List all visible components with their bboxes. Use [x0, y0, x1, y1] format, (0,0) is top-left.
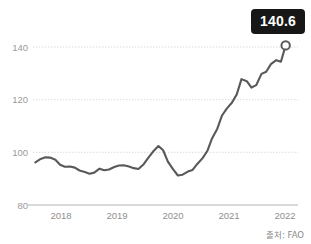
x-axis-tick-labels: 2018 2019 2020 2021 2022 [50, 210, 295, 221]
endpoint-marker-latest-value [281, 41, 289, 49]
chart-container: 140 120 100 80 2018 2019 2020 2021 2022 … [0, 0, 311, 244]
y-tick-label-140: 140 [12, 42, 28, 53]
latest-value-badge-label: 140.6 [260, 13, 296, 29]
line-chart: 140 120 100 80 2018 2019 2020 2021 2022 [0, 0, 311, 244]
data-line-fao-food-price-index [35, 45, 285, 175]
y-axis-tick-labels: 140 120 100 80 [12, 42, 28, 211]
x-tick-label-2018: 2018 [50, 210, 71, 221]
x-tick-label-2020: 2020 [162, 210, 183, 221]
y-tick-label-100: 100 [12, 147, 28, 158]
y-tick-label-120: 120 [12, 94, 28, 105]
latest-value-badge: 140.6 [251, 9, 305, 34]
source-attribution: 출처: FAO [266, 228, 304, 240]
y-tick-label-80: 80 [17, 200, 28, 211]
x-tick-label-2022: 2022 [274, 210, 295, 221]
x-tick-label-2019: 2019 [106, 210, 127, 221]
gridlines [33, 47, 298, 152]
x-tick-label-2021: 2021 [218, 210, 239, 221]
